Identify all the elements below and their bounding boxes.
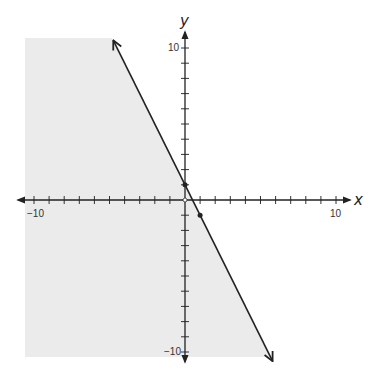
y-axis-label: y (179, 12, 190, 30)
x-max-label: 10 (330, 208, 342, 219)
origin-marker (183, 198, 187, 202)
inequality-graph: x y −10 10 10 −10 (0, 0, 382, 387)
marked-point (198, 213, 203, 218)
x-axis-label: x (353, 191, 363, 209)
shaded-region (25, 38, 271, 357)
marked-point (183, 182, 188, 187)
y-min-label: −10 (164, 346, 181, 357)
x-min-label: −10 (27, 208, 44, 219)
y-max-label: 10 (168, 42, 180, 53)
